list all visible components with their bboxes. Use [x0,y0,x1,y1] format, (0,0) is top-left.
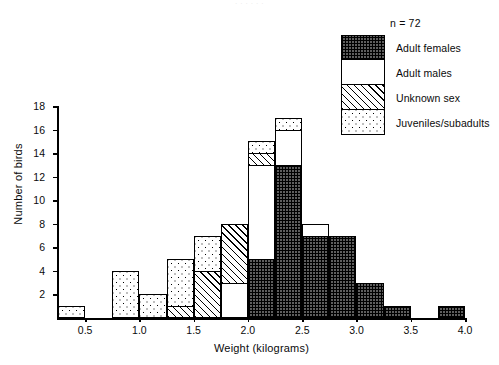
y-axis-label: Number of birds [12,114,24,254]
bar-1.50-1.75 [194,236,221,318]
bar-2.00-2.25 [248,141,275,318]
bar-3.75-4.00 [438,306,465,318]
bar-segment-adult-males [302,224,329,236]
y-tick-label-12: 12 [33,172,45,183]
bar-segment-juveniles-subadults [112,271,139,318]
y-tick-16: 16 [53,130,57,132]
x-axis-line [57,318,465,320]
y-tick-14: 14 [53,153,57,155]
bar-0.75-1.00 [112,271,139,318]
x-tick-label-2.5: 2.5 [295,325,310,336]
y-tick-label-10: 10 [33,195,45,206]
x-tick-3.5 [411,318,413,322]
x-tick-label-0.5: 0.5 [78,325,93,336]
y-tick-label-16: 16 [33,125,45,136]
y-tick-12: 12 [53,177,57,179]
x-tick-2.5 [302,318,304,322]
x-tick-label-3.5: 3.5 [403,325,418,336]
bar-segment-adult-females [384,306,411,318]
bar-segment-adult-males [275,130,302,165]
y-tick-8: 8 [53,224,57,226]
bar-segment-juveniles-subadults [194,236,221,271]
bar-segment-juveniles-subadults [275,118,302,130]
y-tick-10: 10 [53,200,57,202]
y-tick-label-6: 6 [39,242,45,253]
bar-3.00-3.25 [356,283,383,318]
bar-segment-adult-females [302,236,329,318]
y-axis-line [57,106,59,319]
legend-item-adult-females: Adult females [341,35,499,60]
x-tick-1.0 [139,318,141,322]
bar-segment-unknown-sex [248,153,275,165]
bar-2.25-2.50 [275,118,302,318]
x-axis-label: Weight (kilograms) [58,342,465,354]
bar-segment-unknown-sex [221,224,248,283]
y-tick-4: 4 [53,271,57,273]
bar-1.00-1.25 [139,294,166,318]
histogram-figure: · · · · · · n = 72 Adult females Adult m… [0,0,499,365]
x-tick-label-1.0: 1.0 [132,325,147,336]
bar-segment-adult-females [329,236,356,318]
bar-2.50-2.75 [302,224,329,318]
bar-segment-adult-females [275,165,302,318]
x-tick-1.5 [194,318,196,322]
legend-item-adult-males: Adult males [341,60,499,85]
sample-size-annotation: n = 72 [390,17,499,29]
bar-segment-juveniles-subadults [167,259,194,306]
x-tick-0.5 [85,318,87,322]
bar-segment-adult-females [248,259,275,318]
bar-2.75-3.00 [329,236,356,318]
y-tick-label-4: 4 [39,266,45,277]
bar-segment-juveniles-subadults [58,306,85,318]
bar-segment-adult-females [438,306,465,318]
figure-top-text: · · · · · · [0,0,499,7]
legend-label-adult-females: Adult females [396,42,461,54]
x-tick-2.0 [248,318,250,322]
x-tick-label-1.5: 1.5 [186,325,201,336]
legend-swatch-adult-males-icon [341,60,385,85]
bar-1.75-2.00 [221,224,248,318]
bar-segment-adult-males [221,283,248,318]
bar-segment-unknown-sex [194,271,221,318]
x-tick-label-2.0: 2.0 [241,325,256,336]
bar-segment-juveniles-subadults [139,294,166,318]
y-tick-label-18: 18 [33,101,45,112]
y-tick-6: 6 [53,247,57,249]
y-tick-2: 2 [53,294,57,296]
bar-segment-juveniles-subadults [248,141,275,153]
bar-segment-adult-males [248,165,275,259]
bar-segment-adult-females [356,283,383,318]
x-tick-label-4.0: 4.0 [458,325,473,336]
x-tick-3.0 [356,318,358,322]
bar-segment-unknown-sex [167,306,194,318]
y-tick-18: 18 [53,106,57,108]
legend-swatch-adult-females-icon [341,35,385,60]
y-tick-label-2: 2 [39,289,45,300]
y-tick-label-8: 8 [39,219,45,230]
plot-area: 24681012141618 0.51.01.52.02.53.03.54.0 [58,106,465,318]
legend-label-adult-males: Adult males [396,67,452,79]
bar-0.25-0.50 [58,306,85,318]
y-tick-label-14: 14 [33,148,45,159]
legend-label-unknown-sex: Unknown sex [396,92,460,104]
x-tick-4.0 [465,318,467,322]
x-tick-label-3.0: 3.0 [349,325,364,336]
bar-1.25-1.50 [167,259,194,318]
bar-3.25-3.50 [384,306,411,318]
